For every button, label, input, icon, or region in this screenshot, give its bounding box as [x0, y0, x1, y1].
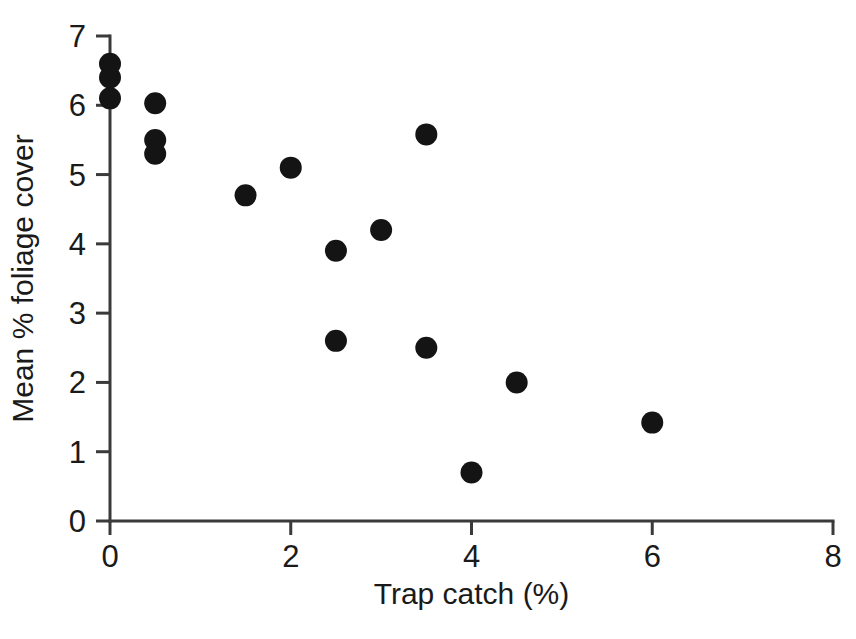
ticks-group	[96, 36, 833, 535]
y-axis-title: Mean % foliage cover	[6, 134, 39, 423]
y-tick-label-2: 2	[69, 365, 86, 400]
data-point	[506, 371, 528, 393]
y-tick-label-0: 0	[69, 504, 86, 539]
data-point	[144, 92, 166, 114]
plot-canvas: 0246801234567 Trap catch (%)Mean % folia…	[0, 0, 856, 639]
data-point	[461, 462, 483, 484]
data-point	[325, 240, 347, 262]
x-tick-label-0: 0	[101, 539, 118, 574]
x-axis-title: Trap catch (%)	[374, 577, 570, 610]
data-point	[280, 157, 302, 179]
x-tick-label-2: 2	[282, 539, 299, 574]
y-tick-label-3: 3	[69, 296, 86, 331]
data-point	[99, 67, 121, 89]
data-point	[641, 412, 663, 434]
x-tick-label-8: 8	[824, 539, 841, 574]
data-point	[99, 87, 121, 109]
y-tick-label-7: 7	[69, 19, 86, 54]
tick-labels-group: 0246801234567	[69, 19, 842, 574]
data-point	[235, 184, 257, 206]
x-tick-label-6: 6	[644, 539, 661, 574]
data-point	[144, 143, 166, 165]
data-point	[415, 337, 437, 359]
y-tick-label-6: 6	[69, 88, 86, 123]
x-tick-label-4: 4	[463, 539, 480, 574]
data-points-group	[99, 53, 663, 484]
data-point	[325, 330, 347, 352]
scatter-plot-figure: 0246801234567 Trap catch (%)Mean % folia…	[0, 0, 856, 639]
data-point	[415, 123, 437, 145]
data-point	[370, 219, 392, 241]
y-tick-label-4: 4	[69, 227, 86, 262]
axes-group	[110, 36, 833, 521]
y-tick-label-1: 1	[69, 435, 86, 470]
y-tick-label-5: 5	[69, 158, 86, 193]
